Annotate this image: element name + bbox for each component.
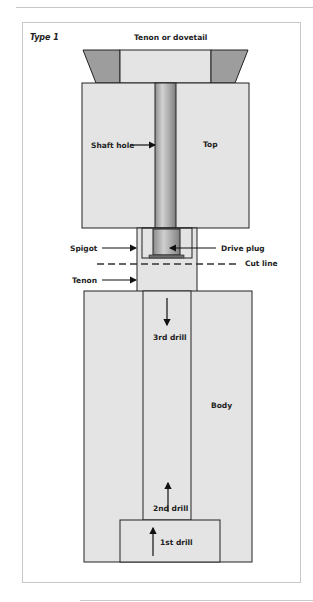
- shaft-hole: [155, 83, 176, 228]
- tenon-dovetail-label: Tenon or dovetail: [134, 34, 207, 42]
- dovetail: [83, 50, 248, 83]
- bottom-rule: [80, 600, 313, 601]
- drive-plug-label: Drive plug: [221, 245, 265, 253]
- body-block: [84, 291, 252, 562]
- body-label: Body: [211, 402, 232, 410]
- second-drill-label: 2nd drill: [153, 505, 188, 513]
- top-block: [82, 83, 249, 228]
- type-label: Type 1: [30, 34, 59, 42]
- third-drill-label: 3rd drill: [153, 334, 187, 342]
- tenon-label: Tenon: [72, 277, 97, 285]
- shaft-hole-label: Shaft hole: [91, 142, 134, 150]
- drive-plug: [153, 229, 180, 255]
- first-drill-label: 1st drill: [160, 539, 193, 547]
- spigot-tenon: [137, 228, 197, 292]
- spigot-label: Spigot: [70, 245, 97, 253]
- drill-channel: [143, 291, 191, 520]
- cut-line-label: Cut line: [245, 260, 278, 268]
- top-label: Top: [203, 141, 218, 149]
